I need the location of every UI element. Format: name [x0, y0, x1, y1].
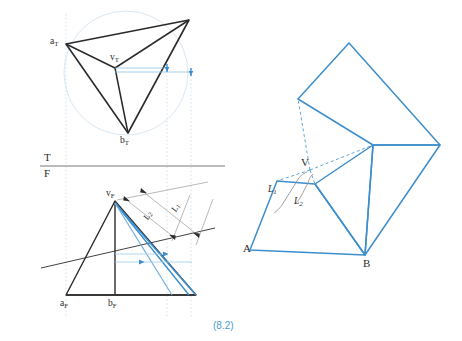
top-view-label-v: vT	[110, 53, 119, 63]
plane-label-top: T	[44, 152, 51, 163]
front-transfer-arrowhead-1	[163, 252, 169, 257]
dimension-arrow-l1-end	[193, 233, 200, 238]
dimension-arrow-l2-start	[123, 196, 130, 201]
pictorial-label-a: A	[243, 243, 251, 254]
front-view-triangle	[66, 201, 196, 295]
pictorial-dimension-label-l1: L1	[268, 185, 277, 195]
front-view-label-a: aF	[60, 299, 68, 309]
figure-canvas: aT vT bT T F vF aF bF L2 L1 V A B L1 L2 …	[0, 0, 462, 341]
figure-geometry	[0, 0, 462, 341]
top-view-edge-center-a	[66, 44, 115, 68]
figure-caption: (8.2)	[213, 320, 234, 331]
top-view-group	[64, 11, 193, 318]
pictorial-view-group	[250, 43, 440, 255]
dim-ext-line-l1-end	[196, 199, 213, 245]
hidden-edge-v-to-a	[277, 170, 310, 181]
pictorial-label-v: V	[301, 157, 309, 168]
pictorial-rear-top-face	[298, 43, 440, 145]
pictorial-right-face	[365, 145, 440, 255]
front-view-label-b: bF	[108, 299, 117, 309]
pictorial-front-face	[315, 145, 373, 255]
front-view-label-v: vF	[106, 189, 115, 199]
transfer-arrowhead-1	[165, 67, 170, 72]
pictorial-dimension-label-l2: L2	[294, 197, 303, 207]
true-length-ray-1	[115, 203, 196, 295]
top-view-construction-circle	[64, 11, 188, 135]
plane-label-front: F	[44, 168, 50, 179]
front-transfer-arrowhead-2	[139, 260, 145, 265]
dimension-arrow-l1-start	[140, 188, 147, 193]
dim-ext-line-apex	[117, 182, 208, 200]
transfer-arrowhead-2	[189, 71, 194, 76]
top-view-label-b: bT	[120, 136, 129, 146]
front-view-group	[41, 182, 215, 295]
top-view-label-a: aT	[50, 37, 58, 47]
pictorial-label-b: B	[363, 258, 370, 269]
